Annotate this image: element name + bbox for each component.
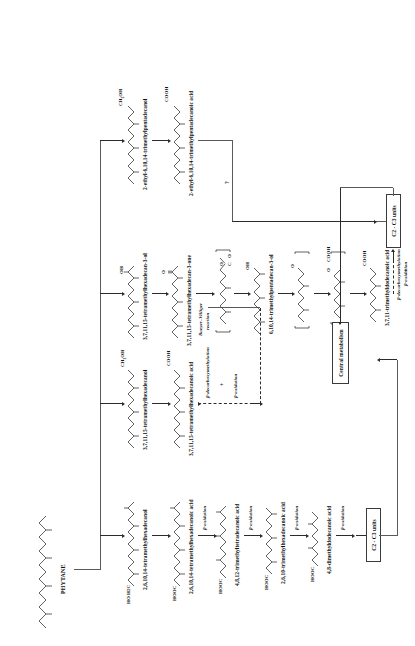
line-units-bus-right xyxy=(393,188,394,196)
arrow-subterminal-1 xyxy=(152,293,166,294)
box-c2c3-units-upper: C2 - C3 units xyxy=(386,194,401,248)
atom-label-cooh-1: COOH xyxy=(166,351,171,366)
step-beta-oxidation-4: β-oxidation xyxy=(340,506,345,530)
arrow-units-into-central xyxy=(340,188,341,324)
atom-label-hooc-2: HOOC xyxy=(218,579,223,594)
atom-label-cooh-2: COOH xyxy=(362,251,367,266)
step-beta-oxidation-subterminal: β-oxidation xyxy=(403,262,408,286)
arrow-ethyl-route-into-units xyxy=(232,221,374,222)
atom-label-cooh-bracket: COOH xyxy=(326,247,331,262)
arrow-subterminal-2 xyxy=(234,293,248,294)
pathway-canvas: PHYTANE HO H2C 2,6,10,14-tetramethylhexa… xyxy=(0,0,415,646)
compound-dimethyldodecanoic-acid: 4,8-dimethyldodecanoic acid xyxy=(327,506,333,574)
chain-trimethyltetradecanoic-acid xyxy=(216,488,232,578)
line-ethyl-question-route xyxy=(232,140,233,222)
compound-tetramethylhexadecanol-omega: 3,7,11,15-tetramethylhexadecanol xyxy=(143,370,149,450)
arrow-omega-tail xyxy=(252,403,260,404)
compound-tetramethylhexadecanoic-acid: 2,6,10,14-tetramethylhexadecanoic acid xyxy=(189,499,195,594)
chain-tetramethylhexadecanoic-acid-omega xyxy=(170,350,186,448)
step-beta-decarboxymethylation-subterminal: β-decarboxymethylation xyxy=(396,249,401,300)
reaction-baeyer-villiger-line1: Baeyer–Villiger xyxy=(198,303,203,336)
arrow-terminal-1 xyxy=(152,535,168,536)
line-lower-units-down xyxy=(379,535,397,536)
phytane-label: PHYTANE xyxy=(60,564,66,594)
step-beta-oxidation-3: β-oxidation xyxy=(294,506,299,530)
step-beta-decarboxymethylation-omega: β-decarboxymethylation xyxy=(205,347,210,398)
atom-label-cooh-3: COOH xyxy=(164,87,169,102)
chain-ester-intermediate xyxy=(214,246,232,330)
compound-trimethylpentadecan-3-ol: 6,10,14-trimethylpentadecan-3-ol xyxy=(269,254,275,334)
phytane-trunk-line xyxy=(74,569,100,570)
chain-tetramethylhexadecan-3-one xyxy=(168,246,184,338)
arrow-subterminal-to-units xyxy=(393,250,394,260)
arrow-subterminal-4 xyxy=(314,293,328,294)
chain-bracketed-intermediate-2 xyxy=(330,244,346,322)
arrow-to-terminal-branch xyxy=(100,535,122,536)
atom-label-ester-o2: O xyxy=(227,254,232,258)
dashed-line-subterminal-to-units xyxy=(393,260,394,294)
atom-label-ho-h2c-1: HO H2C xyxy=(126,585,131,604)
step-beta-oxidation-1: β-oxidation xyxy=(202,506,207,530)
dashed-line-omega xyxy=(198,403,258,404)
atom-label-ch2oh-2: CH2OH xyxy=(118,89,125,106)
arrow-terminal-3 xyxy=(244,535,260,536)
arrow-subterminal-3 xyxy=(278,293,292,294)
chain-trimethylhexadecanoic-acid xyxy=(262,490,278,574)
line-units-bus-down xyxy=(340,187,393,188)
arrow-terminal-2 xyxy=(198,535,214,536)
arrow-terminal-4 xyxy=(290,535,306,536)
chain-ethyl-trimethylpentadecanoic-acid xyxy=(170,92,186,184)
arrow-to-omega-branch xyxy=(100,403,122,404)
arrow-terminal-5 xyxy=(336,535,352,536)
arrow-to-ethyl-branch xyxy=(100,140,122,141)
arrow-into-central-metabolism-left xyxy=(380,359,397,360)
arrow-terminal-to-units xyxy=(356,535,366,536)
chain-trimethyldodecanoic-acid xyxy=(366,246,382,322)
arrow-to-subterminal-branch xyxy=(100,293,122,294)
compound-ethyl-trimethylpentadecanoic-acid: 2-ethyl-6,10,14-trimethylpentadecanoic a… xyxy=(189,91,195,196)
atom-label-hooc-1: HOOC xyxy=(172,586,177,601)
step-beta-oxidation-omega: β-oxidation xyxy=(233,374,238,398)
phytane-structure xyxy=(34,508,54,628)
compound-tetramethylhexadecanoic-acid-omega: 3,7,11,15-tetramethylhexadecanoic acid xyxy=(189,362,195,456)
box-central-metabolism-label: Central metabolism xyxy=(338,329,344,376)
atom-label-hooc-4: HOOC xyxy=(310,567,315,582)
chain-trimethylpentadecan-3-ol xyxy=(250,246,266,334)
step-beta-oxidation-2: β-oxidation xyxy=(248,506,253,530)
chain-dimethyldodecanoic-acid xyxy=(308,496,324,566)
box-c2c3-units-upper-label: C2 - C3 units xyxy=(391,205,397,237)
chain-bracketed-intermediate-1 xyxy=(294,246,310,326)
pathway-figure: PHYTANE HO H2C 2,6,10,14-tetramethylhexa… xyxy=(0,0,415,646)
atom-label-oh-1: OH xyxy=(119,266,124,274)
line-ethyl-route-up xyxy=(198,140,232,141)
atom-label-o-2: O xyxy=(290,264,295,268)
box-c2c3-units-lower-label: C2 - C3 units xyxy=(371,519,377,551)
compound-trimethyltetradecanoic-acid: 4,8,12-trimethyltetradecanoic acid xyxy=(235,504,241,586)
chain-tetramethylhexadecanoic-acid xyxy=(170,486,186,586)
compound-tetramethylhexadecan-3-one: 3,7,11,15-tetramethylhexadecan-3-one xyxy=(187,255,193,346)
compound-tetramethylhexadecan-3-ol: 3,7,11,15-tetramethylhexadecan-3-ol xyxy=(143,253,149,340)
chain-tetramethylhexadecan-3-ol xyxy=(124,246,140,338)
arrow-baeyer-villiger xyxy=(196,293,212,294)
atom-label-ch2oh-1: CH2OH xyxy=(120,350,127,367)
atom-label-o-1: O xyxy=(161,270,166,274)
atom-label-hooc-3: HOOC xyxy=(264,575,269,590)
atom-label-ester-c: C xyxy=(227,262,232,266)
chain-ethyl-trimethylpentadecanol xyxy=(124,92,140,184)
compound-trimethyldodecanoic-acid: 3,7,11-trimethyldodecanoic acid xyxy=(385,250,391,326)
reaction-baeyer-villiger-line2: reaction xyxy=(205,313,210,330)
arrow-subterminal-5 xyxy=(350,293,364,294)
compound-ethyl-trimethylpentadecanol: 2-ethyl-6,10,14-trimethylpentadecanol xyxy=(143,99,149,190)
line-lower-units-right xyxy=(397,360,398,536)
atom-label-oh-2: OH xyxy=(245,262,250,270)
arrow-ethyl-1 xyxy=(152,140,168,141)
branch-distribution-bus xyxy=(100,140,101,570)
box-central-metabolism: Central metabolism xyxy=(332,322,349,384)
arrow-omega-1 xyxy=(152,403,168,404)
atom-label-ester-o: O xyxy=(219,262,224,266)
compound-trimethylhexadecanoic-acid: 2,6,10-trimethylhexadecanoic acid xyxy=(281,502,287,584)
atom-label-o-3: O xyxy=(326,268,331,272)
compound-tetramethylhexadecanol: 2,6,10,14-tetramethylhexadecanol xyxy=(143,509,149,590)
unknown-step-question-mark: ? xyxy=(224,181,230,184)
chain-tetramethylhexadecanol xyxy=(124,486,140,586)
